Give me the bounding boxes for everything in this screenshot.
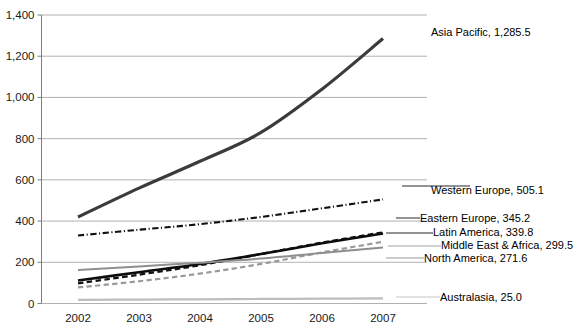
y-axis-tick-label: 1,000	[6, 91, 35, 103]
series-label-latin-america: Latin America, 339.8	[433, 226, 533, 238]
y-axis-tick-label: 800	[15, 133, 34, 145]
line-chart: 02004006008001,0001,2001,400 20022003200…	[0, 0, 581, 329]
series-line-australasia	[78, 298, 383, 299]
series-label-australasia: Australasia, 25.0	[440, 291, 522, 303]
series-label-north-america: North America, 271.6	[424, 252, 527, 264]
y-axis-tick-label: 600	[15, 174, 34, 186]
series-label-middle-east-africa: Middle East & Africa, 299.5	[441, 239, 573, 251]
y-axis-tick-label: 1,400	[6, 9, 35, 21]
chart-canvas: 02004006008001,0001,2001,400 20022003200…	[0, 0, 581, 329]
y-axis-tick-label: 400	[15, 215, 34, 227]
series-label-eastern-europe: Eastern Europe, 345.2	[420, 212, 530, 224]
x-axis-tick-label: 2004	[187, 312, 213, 324]
series-label-asia-pacific: Asia Pacific, 1,285.5	[431, 26, 531, 38]
x-axis-tick-label: 2006	[309, 312, 335, 324]
x-axis-tick-label: 2007	[370, 312, 396, 324]
x-axis-tick-label: 2002	[65, 312, 91, 324]
x-axis-tick-label: 2005	[248, 312, 274, 324]
y-axis-tick-label: 0	[28, 298, 34, 310]
x-axis-tick-label: 2003	[126, 312, 152, 324]
y-axis-tick-label: 1,200	[6, 50, 35, 62]
y-axis-tick-label: 200	[15, 256, 34, 268]
series-label-western-europe: Western Europe, 505.1	[431, 184, 544, 196]
